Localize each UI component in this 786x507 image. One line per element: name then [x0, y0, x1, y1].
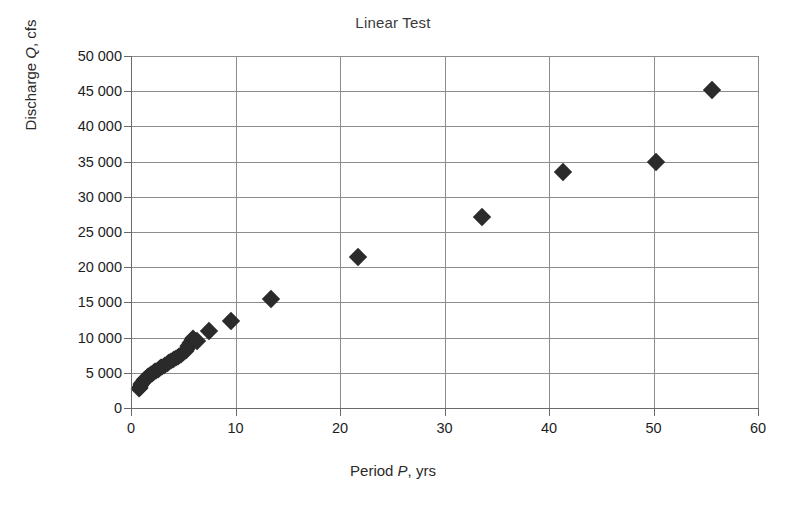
x-axis-tick-label: 20	[310, 420, 370, 436]
x-axis-tick	[340, 408, 341, 416]
y-axis-tick-label: 10 000	[30, 330, 122, 346]
gridline-vertical	[340, 56, 341, 408]
x-axis-tick	[654, 408, 655, 416]
y-axis-tick-label: 35 000	[30, 154, 122, 170]
y-axis-tick	[124, 56, 132, 57]
gridline-vertical	[549, 56, 550, 408]
y-axis-tick-label: 25 000	[30, 224, 122, 240]
y-axis-tick	[124, 126, 132, 127]
data-point-marker	[553, 163, 571, 181]
x-axis-tick-label: 50	[624, 420, 684, 436]
y-axis-tick-label: 50 000	[30, 48, 122, 64]
gridline-vertical	[758, 56, 759, 408]
data-point-marker	[646, 152, 664, 170]
y-axis-tick-label: 5 000	[30, 365, 122, 381]
y-axis-tick	[124, 91, 132, 92]
data-point-marker	[349, 247, 367, 265]
x-axis-tick-label: 30	[415, 420, 475, 436]
gridline-vertical	[654, 56, 655, 408]
y-axis-tick	[124, 302, 132, 303]
x-axis-tick	[445, 408, 446, 416]
x-axis-tick-label: 40	[519, 420, 579, 436]
x-axis-title-pre: Period	[350, 462, 398, 479]
y-axis-tick-label: 30 000	[30, 189, 122, 205]
x-axis-tick	[236, 408, 237, 416]
x-axis-tick	[549, 408, 550, 416]
y-axis-tick	[124, 338, 132, 339]
y-axis-tick	[124, 232, 132, 233]
y-axis-tick-label: 15 000	[30, 294, 122, 310]
data-point-marker	[473, 207, 491, 225]
x-axis-tick	[758, 408, 759, 416]
x-axis-tick-label: 0	[101, 420, 161, 436]
x-axis-tick-label: 60	[728, 420, 786, 436]
y-axis-tick	[124, 197, 132, 198]
y-axis-tick	[124, 162, 132, 163]
chart-container: Linear Test Discharge Q, cfs Period P, y…	[0, 0, 786, 507]
y-axis-tick	[124, 267, 132, 268]
gridline-vertical	[236, 56, 237, 408]
plot-area	[131, 56, 758, 408]
y-axis-tick-label: 0	[30, 400, 122, 416]
x-axis-tick-label: 10	[206, 420, 266, 436]
gridline-vertical	[445, 56, 446, 408]
data-point-marker	[262, 290, 280, 308]
x-axis-title-post: , yrs	[408, 462, 436, 479]
y-axis-tick-label: 40 000	[30, 118, 122, 134]
data-point-marker	[222, 312, 240, 330]
x-axis-title-symbol: P	[398, 462, 408, 479]
y-axis-tick-label: 20 000	[30, 259, 122, 275]
data-point-marker	[703, 81, 721, 99]
x-axis-tick	[131, 408, 132, 416]
y-axis-tick	[124, 373, 132, 374]
y-axis-tick-label: 45 000	[30, 83, 122, 99]
